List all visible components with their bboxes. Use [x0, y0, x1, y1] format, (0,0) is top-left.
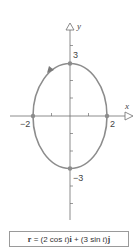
tick-label-y-pos: 3 — [73, 50, 78, 60]
equation-part-1: = (2 cos — [31, 235, 64, 244]
equation-box: r = (2 cos t)i + (3 sin t)j — [9, 231, 129, 247]
equation-j: j — [107, 235, 110, 244]
tick-label-x-neg: −2 — [20, 119, 30, 129]
x-axis-label: x — [124, 101, 129, 111]
equation-part-3: + (3 sin — [72, 235, 103, 244]
ellipse-plot: x y −2 2 3 −3 — [0, 0, 140, 230]
tick-label-x-pos: 2 — [110, 119, 115, 129]
x-axis-arrow-icon — [125, 112, 133, 120]
y-axis-label: y — [76, 21, 81, 31]
tick-label-y-neg: −3 — [73, 173, 83, 183]
y-axis-arrow-icon — [66, 23, 74, 30]
